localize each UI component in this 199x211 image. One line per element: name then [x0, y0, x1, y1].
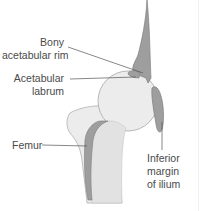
leader-bony-rim — [68, 47, 143, 73]
right-edge-divider — [198, 0, 199, 211]
label-acetabular-labrum: Acetabular labrum — [2, 72, 64, 98]
femur-medullary — [91, 121, 126, 203]
label-line: margin — [147, 165, 180, 178]
label-line: acetabular rim — [2, 49, 64, 62]
label-line: of ilium — [147, 178, 180, 191]
label-line: Femur — [12, 139, 42, 152]
label-line: Acetabular — [2, 72, 64, 85]
label-femur: Femur — [12, 139, 42, 152]
label-bony-acetabular-rim: Bony acetabular rim — [2, 36, 64, 62]
label-line: Bony — [2, 36, 64, 49]
label-line: labrum — [2, 85, 64, 98]
label-inferior-margin-of-ilium: Inferior margin of ilium — [147, 152, 180, 191]
label-line: Inferior — [147, 152, 180, 165]
